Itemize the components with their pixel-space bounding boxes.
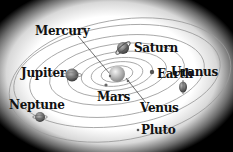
label-pluto: Pluto <box>141 124 175 136</box>
label-saturn: Saturn <box>134 42 178 54</box>
label-venus: Venus <box>140 102 179 114</box>
earth-icon <box>150 70 154 74</box>
label-mercury: Mercury <box>35 25 89 37</box>
label-jupiter: Jupiter <box>21 67 66 79</box>
label-mars: Mars <box>97 91 130 103</box>
label-neptune: Neptune <box>9 99 65 111</box>
mars-icon <box>104 83 107 86</box>
neptune-icon <box>33 112 48 122</box>
venus-icon <box>127 80 130 83</box>
mercury-icon <box>109 75 111 77</box>
uranus-icon <box>179 80 187 94</box>
pluto-icon <box>137 129 140 132</box>
sun-icon <box>109 66 125 82</box>
solar-system-diagram: Mercury Saturn Jupiter Earth Uranus Mars… <box>0 0 233 152</box>
label-uranus: Uranus <box>171 66 218 78</box>
